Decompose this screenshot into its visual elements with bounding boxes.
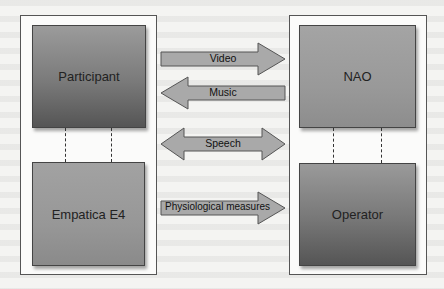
right-dashed-connector-1 <box>333 128 334 163</box>
left-dashed-connector-1 <box>65 128 66 162</box>
operator-node: Operator <box>299 163 416 266</box>
music-arrow: Music <box>160 76 286 110</box>
operator-label: Operator <box>332 207 383 222</box>
nao-label: NAO <box>343 69 371 84</box>
physiological-measures-label: Physiological measures <box>160 201 286 212</box>
right-dashed-connector-2 <box>381 128 382 163</box>
video-arrow: Video <box>160 42 286 76</box>
participant-label: Participant <box>58 69 119 84</box>
left-dashed-connector-2 <box>111 128 112 162</box>
empatica-node: Empatica E4 <box>32 162 145 266</box>
music-label: Music <box>160 86 286 98</box>
nao-node: NAO <box>299 25 416 128</box>
physiological-measures-arrow: Physiological measures <box>160 191 286 225</box>
speech-label: Speech <box>160 137 286 149</box>
empatica-label: Empatica E4 <box>52 207 126 222</box>
video-label: Video <box>160 52 286 64</box>
participant-node: Participant <box>32 25 146 128</box>
speech-arrow: Speech <box>160 127 286 161</box>
